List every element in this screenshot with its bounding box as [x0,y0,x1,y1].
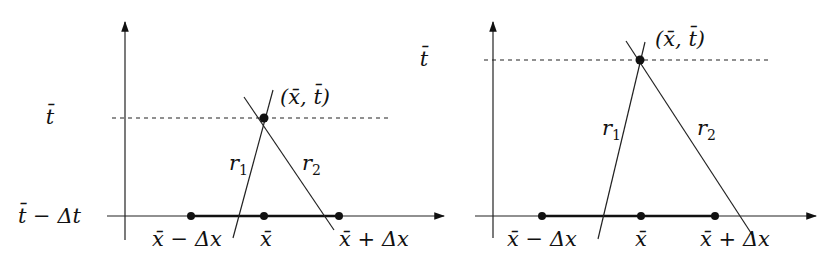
left-r1-label: r1 [229,151,248,178]
right-point-label: (x̄, t̄) [655,25,705,51]
left-r2-label: r2 [302,151,321,178]
right-r2-label: r2 [697,116,716,143]
characteristics-figure: t̄ t̄ − Δt (x̄, t̄) r1 r2 x̄ − Δx x̄ x̄ … [0,0,836,261]
right-t-bar-label: t̄ [420,45,429,71]
right-panel: t̄ (x̄, t̄) r1 r2 x̄ − Δx x̄ x̄ + Δx [420,22,816,251]
right-x-bar-label: x̄ [635,227,647,251]
left-intersection-point [260,114,269,123]
right-dot-x-bar [637,212,645,220]
left-point-label: (x̄, t̄) [280,83,330,109]
right-r1-label: r1 [602,116,621,143]
right-ray-r1 [598,42,645,239]
right-dot-x-minus-dx [538,212,546,220]
right-intersection-point [636,56,645,65]
left-x-plus-dx-label: x̄ + Δx [339,227,409,251]
left-dot-x-bar [260,212,268,220]
right-x-minus-dx-label: x̄ − Δx [507,227,577,251]
right-ray-r2 [626,41,753,236]
left-panel: t̄ t̄ − Δt (x̄, t̄) r1 r2 x̄ − Δx x̄ x̄ … [18,22,444,251]
left-dot-x-minus-dx [187,212,195,220]
right-x-plus-dx-label: x̄ + Δx [700,227,770,251]
left-x-minus-dx-label: x̄ − Δx [152,227,222,251]
right-dot-x-plus-dx [711,212,719,220]
left-t-bar-label: t̄ [46,103,55,129]
left-t-minus-dt-label: t̄ − Δt [18,202,82,228]
left-dot-x-plus-dx [335,212,343,220]
left-x-bar-label: x̄ [260,227,272,251]
